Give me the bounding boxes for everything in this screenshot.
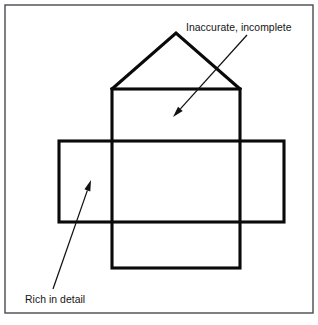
rich-in-detail-label: Rich in detail: [25, 294, 85, 305]
house-diagram: Inaccurate, incomplete Rich in detail: [0, 0, 318, 325]
horizontal-rectangle: [59, 141, 284, 222]
roof-triangle: [112, 33, 240, 89]
figure-container: Inaccurate, incomplete Rich in detail: [0, 0, 318, 325]
inaccurate-incomplete-label: Inaccurate, incomplete: [186, 22, 292, 33]
rich-in-detail-arrowhead: [84, 180, 91, 191]
vertical-rectangle: [112, 89, 240, 268]
